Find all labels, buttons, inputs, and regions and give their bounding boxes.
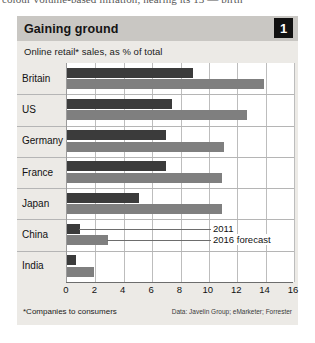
x-tick-label: 10 — [203, 284, 214, 295]
chart-footnote: *Companies to consumers — [23, 307, 117, 316]
category-label-germany: Germany — [22, 135, 63, 146]
grid-line — [294, 63, 295, 282]
category-label-china: China — [22, 229, 48, 240]
chart-row — [67, 157, 294, 188]
plot-area — [66, 63, 294, 282]
category-label-britain: Britain — [22, 73, 50, 84]
bar-britain-2016 — [67, 79, 264, 89]
row-separator — [17, 219, 66, 220]
x-tick-label: 12 — [231, 284, 242, 295]
chart-title: Gaining ground — [24, 22, 118, 36]
chart-row — [67, 219, 294, 250]
x-tick-label: 14 — [259, 284, 270, 295]
bar-india-2011 — [67, 255, 76, 265]
chart-row — [67, 188, 294, 219]
x-tick-label: 6 — [148, 284, 153, 295]
x-axis: 0246810121416 — [66, 282, 293, 298]
bar-britain-2011 — [67, 68, 193, 78]
bar-germany-2011 — [67, 130, 166, 140]
category-label-india: India — [22, 260, 44, 271]
bar-china-2016 — [67, 235, 108, 245]
x-axis-line — [66, 282, 293, 283]
bar-japan-2016 — [67, 204, 222, 214]
article-text-line: colour volume-based inflation, nearing i… — [2, 0, 243, 5]
bar-japan-2011 — [67, 193, 139, 203]
chart-subtitle: Online retail* sales, as % of total — [24, 46, 298, 57]
category-label-france: France — [22, 167, 53, 178]
bar-france-2011 — [67, 161, 166, 171]
bar-france-2016 — [67, 173, 222, 183]
x-tick-label: 2 — [92, 284, 97, 295]
chart-row — [67, 251, 294, 282]
row-separator — [17, 157, 66, 158]
bar-germany-2016 — [67, 142, 224, 152]
bar-china-2011 — [67, 224, 80, 234]
category-label-japan: Japan — [22, 198, 49, 209]
category-axis: BritainUSGermanyFranceJapanChinaIndia — [17, 63, 66, 282]
category-label-us: US — [22, 104, 36, 115]
chart-footer: *Companies to consumers Data: Javelin Gr… — [17, 307, 298, 321]
x-tick-label: 16 — [288, 284, 299, 295]
chart-figure: Gaining ground 1 Online retail* sales, a… — [17, 16, 298, 325]
chart-header: Gaining ground 1 — [17, 16, 298, 41]
x-tick-label: 0 — [63, 284, 68, 295]
chart-row — [67, 126, 294, 157]
plot-wrapper: BritainUSGermanyFranceJapanChinaIndia 20… — [17, 63, 298, 295]
bar-india-2016 — [67, 267, 94, 277]
x-tick-label: 8 — [177, 284, 182, 295]
row-separator — [17, 188, 66, 189]
chart-source: Data: Javelin Group; eMarketer; Forreste… — [172, 308, 292, 315]
chart-row — [67, 94, 294, 125]
figure-number-badge: 1 — [274, 18, 293, 38]
chart-row — [67, 63, 294, 94]
row-separator — [17, 126, 66, 127]
x-tick-label: 4 — [120, 284, 125, 295]
row-separator — [17, 94, 66, 95]
bar-us-2016 — [67, 110, 247, 120]
row-separator — [17, 251, 66, 252]
bar-us-2011 — [67, 99, 172, 109]
article-text-bleed: colour volume-based inflation, nearing i… — [0, 0, 315, 13]
